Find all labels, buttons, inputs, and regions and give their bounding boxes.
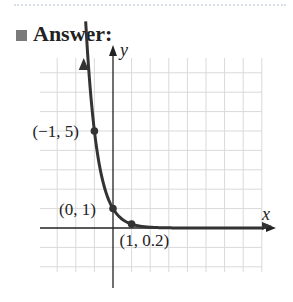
data-point xyxy=(128,220,136,228)
point-label: (−1, 5) xyxy=(32,122,78,141)
y-axis-arrow-icon xyxy=(109,45,117,56)
point-label: (1, 0.2) xyxy=(120,231,170,250)
exponential-graph: xy(−1, 5)(0, 1)(1, 0.2) xyxy=(0,0,293,302)
x-axis-label: x xyxy=(261,204,270,224)
point-label: (0, 1) xyxy=(59,200,96,219)
data-point xyxy=(109,205,117,213)
data-point xyxy=(91,127,99,135)
y-axis-label: y xyxy=(118,40,128,60)
